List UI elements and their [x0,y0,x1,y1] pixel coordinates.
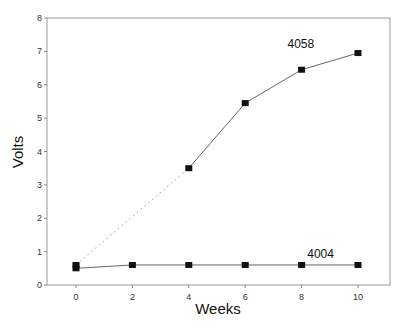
series-4058: 4058 [73,37,362,268]
x-tick-label: 4 [186,292,191,302]
data-point-marker [242,262,249,268]
y-tick-label: 3 [37,180,42,190]
y-tick-label: 5 [37,113,42,123]
x-tick-label: 10 [353,292,363,302]
series-line-segment [302,53,358,70]
data-point-marker [242,100,249,106]
data-point-marker [298,67,305,73]
y-tick-label: 0 [37,280,42,290]
x-axis-title: Weeks [195,300,241,317]
y-tick-label: 8 [37,13,42,23]
y-axis-title: Volts [9,136,26,169]
data-point-marker [185,262,192,268]
plot-frame [47,18,390,285]
data-point-marker [73,265,80,271]
series-group: 40584004 [73,37,362,271]
x-tick-label: 6 [243,292,248,302]
y-tick-label: 7 [37,46,42,56]
data-point-marker [355,262,362,268]
y-tick-label: 6 [37,80,42,90]
series-line-segment [245,70,301,103]
line-chart: 012345678 0246810 40584004 Weeks Volts [0,0,403,327]
series-4004: 4004 [73,247,362,271]
y-axis: 012345678 [37,13,47,290]
series-line-segment [76,265,132,268]
series-line-segment [189,103,245,168]
data-point-marker [355,50,362,56]
y-tick-label: 2 [37,213,42,223]
x-tick-label: 2 [130,292,135,302]
x-tick-label: 8 [299,292,304,302]
series-label: 4004 [307,247,334,261]
plot-border [47,18,390,285]
data-point-marker [185,165,192,171]
series-line-segment [76,168,189,265]
y-tick-label: 4 [37,147,42,157]
x-tick-label: 0 [73,292,78,302]
series-label: 4058 [288,37,315,51]
data-point-marker [298,262,305,268]
y-tick-label: 1 [37,247,42,257]
data-point-marker [129,262,136,268]
